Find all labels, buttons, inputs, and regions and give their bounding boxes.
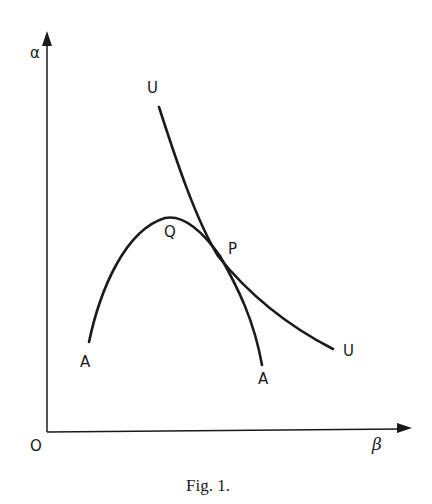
point-q-label: Q	[164, 225, 176, 240]
curve-u-right-label: U	[343, 344, 354, 359]
y-axis-arrow-icon	[42, 31, 52, 46]
curve-a-right-label: A	[258, 372, 268, 387]
curve-u-top-label: U	[147, 81, 158, 96]
figure-caption: Fig. 1.	[186, 476, 230, 496]
x-axis-label: β	[372, 436, 382, 453]
diagram-canvas	[0, 0, 432, 504]
curve-a-left-label: A	[80, 355, 90, 370]
x-axis	[47, 429, 400, 432]
curve-u	[159, 107, 333, 349]
point-p-label: P	[228, 242, 237, 257]
x-axis-arrow-icon	[397, 423, 412, 433]
figure-page: α O β U U A A Q P Fig. 1.	[0, 0, 432, 504]
y-axis-label: α	[30, 46, 40, 61]
origin-label: O	[30, 439, 42, 454]
